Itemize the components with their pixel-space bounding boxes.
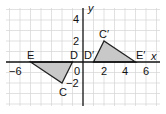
y-tick-2: 2 [73,36,79,47]
vertex-label-e: E [27,50,34,61]
vertex-label-d-prime: D′ [84,50,94,61]
origin-label: 0 [74,66,80,77]
vertex-label-d: D [70,50,78,61]
x-tick-4: 4 [122,66,128,77]
coordinate-plane-diagram: y x 4 2 −2 0 −6 2 4 6 E D C D′ C′ E′ [0,0,166,114]
y-tick-neg2: −2 [66,78,79,89]
y-tick-4: 4 [73,14,79,25]
vertex-label-c: C [59,87,67,98]
x-tick-2: 2 [101,66,107,77]
vertex-label-e-prime: E′ [136,50,145,61]
y-axis-label: y [88,3,94,14]
x-axis-label: x [151,51,157,62]
x-tick-neg6: −6 [9,66,22,77]
vertex-label-c-prime: C′ [99,29,109,40]
x-tick-6: 6 [143,66,149,77]
